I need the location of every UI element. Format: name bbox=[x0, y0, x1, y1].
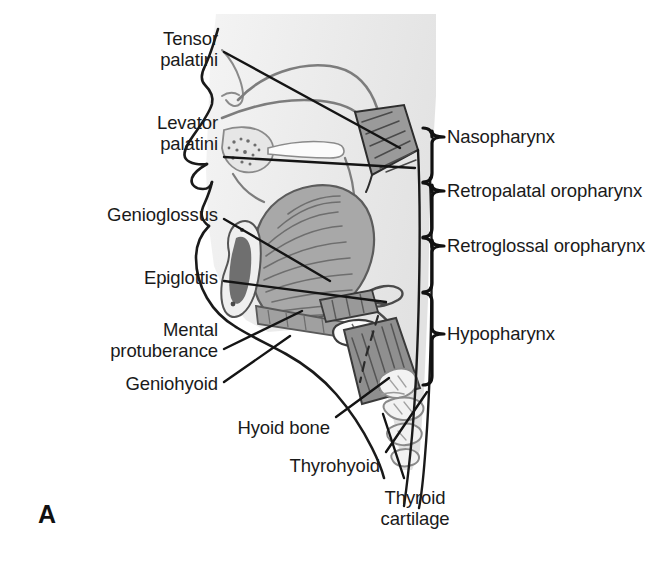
label-tensor-palatini-line-1: Tensor bbox=[0, 28, 218, 49]
label-geniohyoid: Geniohyoid bbox=[0, 373, 218, 394]
label-mental-protuberance-line-2: protuberance bbox=[0, 340, 218, 361]
label-retroglossal-oropharynx: Retroglossal oropharynx bbox=[447, 235, 645, 256]
label-hypopharynx: Hypopharynx bbox=[447, 323, 555, 344]
label-hyoid-bone: Hyoid bone bbox=[0, 417, 330, 438]
anatomy-figure: TensorpalatiniLevatorpalatiniGenioglossu… bbox=[0, 0, 670, 562]
label-retropalatal-oropharynx: Retropalatal oropharynx bbox=[447, 180, 642, 201]
label-thyrohyoid: Thyrohyoid bbox=[0, 455, 380, 476]
label-mental-protuberance: Mentalprotuberance bbox=[0, 319, 218, 361]
label-epiglottis-line-1: Epiglottis bbox=[0, 267, 218, 288]
label-thyroid-cartilage-line-1: Thyroid bbox=[325, 487, 505, 508]
label-levator-palatini-line-1: Levator bbox=[0, 112, 218, 133]
label-thyroid-cartilage-line-2: cartilage bbox=[325, 508, 505, 529]
label-nasopharynx: Nasopharynx bbox=[447, 126, 555, 147]
label-tensor-palatini-line-2: palatini bbox=[0, 49, 218, 70]
label-mental-protuberance-line-1: Mental bbox=[0, 319, 218, 340]
label-genioglossus: Genioglossus bbox=[0, 204, 218, 225]
label-thyrohyoid-line-1: Thyrohyoid bbox=[0, 455, 380, 476]
label-thyroid-cartilage: Thyroidcartilage bbox=[325, 487, 505, 529]
label-tensor-palatini: Tensorpalatini bbox=[0, 28, 218, 70]
label-geniohyoid-line-1: Geniohyoid bbox=[0, 373, 218, 394]
label-levator-palatini: Levatorpalatini bbox=[0, 112, 218, 154]
label-hyoid-bone-line-1: Hyoid bone bbox=[0, 417, 330, 438]
label-epiglottis: Epiglottis bbox=[0, 267, 218, 288]
panel-letter: A bbox=[38, 500, 56, 529]
label-genioglossus-line-1: Genioglossus bbox=[0, 204, 218, 225]
label-levator-palatini-line-2: palatini bbox=[0, 133, 218, 154]
